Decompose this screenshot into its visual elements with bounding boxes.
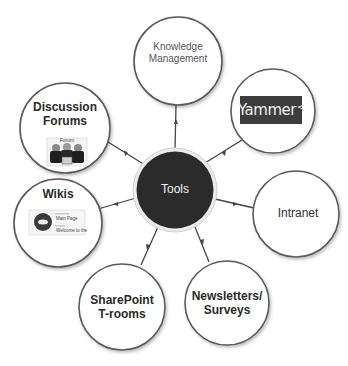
newsletters-label: Newsletters/ Surveys (185, 290, 269, 318)
knowledge-line2: Management (138, 53, 218, 65)
newsletters-line1: Newsletters/ (185, 290, 269, 304)
forum-thumb-title: Forum (47, 138, 87, 144)
newsletters-line2: Surveys (185, 304, 269, 318)
hub-text: Tools (161, 182, 189, 196)
knowledge-line1: Knowledge (138, 41, 218, 53)
connector-yammer (205, 140, 242, 163)
hub-label: Tools (135, 183, 215, 197)
wiki-thumb-line1: Main Page (56, 216, 78, 221)
intranet-text: Intranet (278, 206, 319, 220)
knowledge-management-label: Knowledge Management (138, 41, 218, 64)
wikis-text: Wikis (42, 187, 73, 201)
wiki-thumb-line2: Welcome to the (56, 228, 87, 233)
yammer-logo: Yammer< (240, 96, 302, 124)
connector-newsletters (195, 227, 209, 262)
forums-line1: Discussion (22, 101, 108, 115)
connector-sharepoint (141, 227, 158, 265)
sharepoint-line2: T-rooms (80, 308, 164, 322)
intranet-label: Intranet (258, 207, 338, 221)
wikis-label: Wikis (18, 188, 98, 202)
yammer-mark-icon: < (297, 102, 304, 112)
sharepoint-label: SharePoint T-rooms (80, 294, 164, 322)
sharepoint-line1: SharePoint (80, 294, 164, 308)
yammer-logo-text: Yammer (238, 101, 296, 119)
connector-knowledge (175, 105, 176, 150)
discussion-forums-label: Discussion Forums (22, 101, 108, 129)
forums-line2: Forums (22, 115, 108, 129)
